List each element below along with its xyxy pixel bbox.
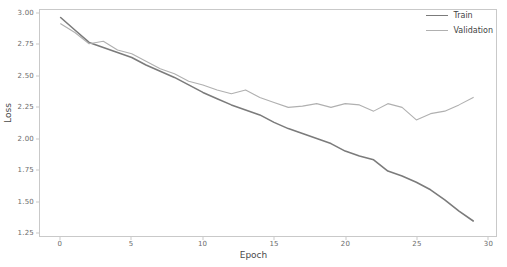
x-tick-label: 0: [57, 240, 62, 248]
y-tick-label: 2.75: [4, 40, 34, 48]
x-tick-mark: [202, 237, 203, 240]
x-tick-mark: [274, 237, 275, 240]
chart-title: [39, 0, 497, 1]
x-tick-label: 25: [412, 240, 421, 248]
x-tick-label: 15: [269, 240, 278, 248]
y-tick-label: 1.75: [4, 166, 34, 174]
legend-entry-validation[interactable]: Validation: [426, 25, 493, 35]
legend-label: Train: [453, 11, 472, 20]
legend-line-swatch: [426, 15, 448, 16]
x-tick-label: 30: [484, 240, 493, 248]
series-line-train: [61, 17, 474, 221]
legend-entry-train[interactable]: Train: [426, 10, 493, 20]
y-tick-label: 3.00: [4, 9, 34, 17]
plot-lines: [40, 10, 496, 236]
x-tick-label: 20: [341, 240, 350, 248]
y-tick-label: 2.50: [4, 72, 34, 80]
x-tick-label: 10: [198, 240, 207, 248]
y-tick-label: 1.25: [4, 229, 34, 237]
x-tick-mark: [59, 237, 60, 240]
series-line-validation: [61, 24, 474, 120]
y-tick-label: 2.25: [4, 103, 34, 111]
x-tick-mark: [345, 237, 346, 240]
x-axis-label: Epoch: [0, 250, 507, 260]
legend-label: Validation: [453, 26, 493, 35]
y-tick-label: 2.00: [4, 135, 34, 143]
y-tick-label: 1.50: [4, 198, 34, 206]
x-tick-label: 5: [129, 240, 134, 248]
legend-line-swatch: [426, 30, 448, 31]
chart-legend: TrainValidation: [422, 7, 497, 38]
x-tick-mark: [416, 237, 417, 240]
loss-curve-figure: Loss Epoch 1.251.501.752.002.252.502.753…: [0, 0, 507, 267]
x-tick-mark: [488, 237, 489, 240]
x-tick-mark: [131, 237, 132, 240]
plot-area: [39, 9, 497, 237]
